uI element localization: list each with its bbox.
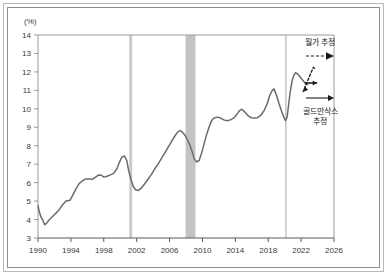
wall-street-estimate-label: 월가 추정 [305,37,336,47]
x-tick-label: 2022 [292,246,310,255]
y-tick-label: 3 [27,234,32,243]
x-tick-label: 2010 [194,246,212,255]
y-tick-label: 10 [22,105,31,114]
y-tick-label: 9 [27,123,32,132]
y-tick-label: 14 [22,31,31,40]
y-tick-label: 11 [23,86,32,95]
x-axis-ticks: 1990199419982002200620102014201820222026 [29,238,343,255]
chart-figure: 14131211109876543 1990199419982002200620… [0,0,387,275]
x-tick-label: 1994 [62,246,80,255]
x-tick-label: 2018 [259,246,277,255]
y-tick-label: 4 [27,216,32,225]
x-tick-label: 2014 [226,246,244,255]
goldman-estimate-label-line2: 추정 [313,116,327,126]
line-chart: 14131211109876543 1990199419982002200620… [0,0,387,275]
x-tick-label: 2006 [161,246,179,255]
y-tick-label: 12 [22,68,31,77]
recession-2020 [285,35,287,238]
recession-2001 [129,35,132,238]
x-tick-label: 1990 [29,246,47,255]
y-tick-label: 8 [27,142,32,151]
x-tick-label: 2002 [128,246,146,255]
x-tick-label: 1998 [95,246,113,255]
goldman-estimate-label-line1: 골드만삭스 [303,106,338,116]
y-tick-label: 6 [27,179,32,188]
y-tick-label: 5 [27,197,32,206]
y-tick-label: 7 [27,160,32,169]
y-tick-label: 13 [22,49,31,58]
y-axis-unit-label: (%) [24,17,37,26]
y-axis-ticks: 14131211109876543 [22,31,38,243]
recession-2008 [186,35,196,238]
x-tick-label: 2026 [325,246,343,255]
